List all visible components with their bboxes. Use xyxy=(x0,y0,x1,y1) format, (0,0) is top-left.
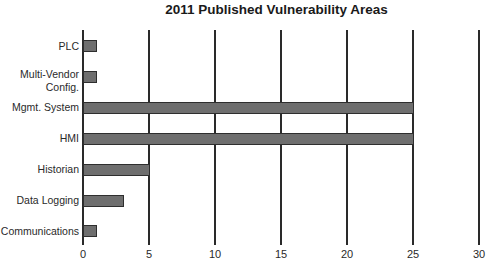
x-tick-label: 30 xyxy=(464,248,494,260)
category-label: Communications xyxy=(1,225,79,238)
bar-data-logging xyxy=(83,195,124,207)
category-label: PLC xyxy=(59,40,79,53)
category-label-line: Historian xyxy=(38,163,79,176)
category-label-line: Data Logging xyxy=(17,194,79,207)
gridline xyxy=(478,30,480,245)
category-label: Data Logging xyxy=(17,194,79,207)
category-label-line: Mgmt. System xyxy=(12,101,79,114)
category-label: HMI xyxy=(60,132,79,145)
bar-multi-vendor-config xyxy=(83,71,97,83)
bar-communications xyxy=(83,225,97,237)
bar-historian xyxy=(83,164,150,176)
category-label-line: Config. xyxy=(20,81,79,94)
category-label: Mgmt. System xyxy=(12,101,79,114)
x-tick-label: 15 xyxy=(266,248,296,260)
bar-mgmt-system xyxy=(83,102,414,114)
x-tick-label: 10 xyxy=(200,248,230,260)
category-label-line: PLC xyxy=(59,40,79,53)
chart-title: 2011 Published Vulnerability Areas xyxy=(0,2,495,17)
category-label-line: Communications xyxy=(1,225,79,238)
category-label-line: Multi-Vendor xyxy=(20,68,79,81)
category-label: Multi-VendorConfig. xyxy=(20,68,79,94)
x-tick-label: 5 xyxy=(134,248,164,260)
category-label: Historian xyxy=(38,163,79,176)
x-tick-label: 0 xyxy=(68,248,98,260)
bar-plc xyxy=(83,40,97,52)
x-tick-label: 20 xyxy=(332,248,362,260)
bar-hmi xyxy=(83,133,414,145)
category-label-line: HMI xyxy=(60,132,79,145)
x-tick-label: 25 xyxy=(398,248,428,260)
